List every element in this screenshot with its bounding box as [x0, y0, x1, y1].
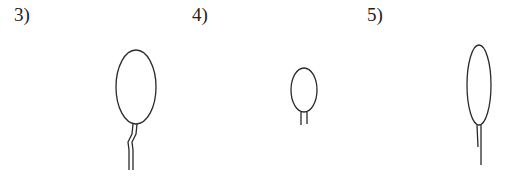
figure-5-drawing: [467, 45, 491, 165]
figure-3-drawing: [116, 50, 156, 170]
figure-4-drawing: [291, 68, 317, 125]
figures-canvas: [0, 0, 517, 176]
